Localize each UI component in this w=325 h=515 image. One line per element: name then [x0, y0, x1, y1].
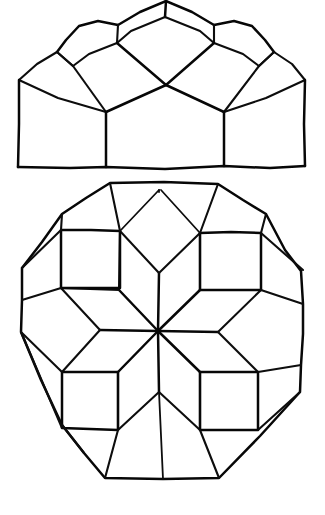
dome-plan-figure — [0, 180, 325, 515]
drawing-sheet — [0, 0, 325, 515]
elevation-ridge-band — [57, 21, 274, 52]
plan-square-upper-right — [200, 232, 261, 290]
plan-square-lower-left — [62, 372, 118, 430]
elevation-apex-lines — [118, 1, 214, 25]
plan-square-lower-right — [200, 372, 258, 430]
elevation-lower-wall — [18, 80, 305, 167]
plan-square-upper-left — [61, 230, 120, 288]
elevation-baseline — [18, 166, 305, 169]
elevation-middle-panels — [73, 43, 259, 112]
dome-elevation-figure — [0, 0, 325, 180]
